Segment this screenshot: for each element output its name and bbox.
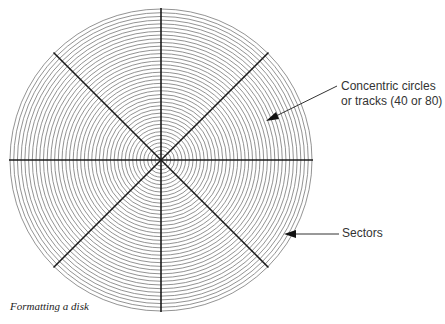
tracks-label-line2: or tracks (40 or 80)	[341, 94, 442, 109]
disk-diagram	[0, 0, 445, 324]
sectors-pointer-arrow	[284, 230, 339, 238]
disk-sector-lines	[9, 8, 313, 312]
figure-caption: Formatting a disk	[10, 300, 89, 312]
tracks-label: Concentric circles or tracks (40 or 80)	[341, 79, 442, 109]
sectors-label: Sectors	[342, 226, 383, 241]
tracks-label-line1: Concentric circles	[341, 79, 442, 94]
